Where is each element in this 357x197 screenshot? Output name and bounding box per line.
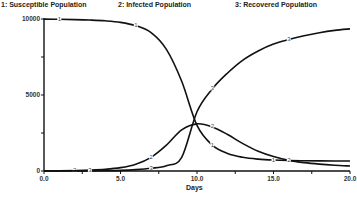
x-tick-label: 0.0 [39,175,48,182]
chart-plot: 0500010000 0.05.010.015.020.0 1111222233… [0,0,357,197]
x-tick-label: 15.0 [267,175,280,182]
y-tick-label: 0 [36,167,40,174]
y-tick-label: 5000 [26,91,41,98]
x-tick-label: 20.0 [344,175,357,182]
series-line-1 [44,19,350,161]
x-axis-label: Days [186,184,203,191]
y-tick-label: 10000 [22,15,40,22]
series-line-3 [44,29,350,171]
y-ticks: 0500010000 [22,15,44,174]
series-line-2 [44,124,350,171]
data-curves: 111122223333 [44,16,350,174]
x-tick-label: 10.0 [191,175,204,182]
x-tick-label: 5.0 [116,175,125,182]
x-ticks: 0.05.010.015.020.0 [39,171,356,182]
